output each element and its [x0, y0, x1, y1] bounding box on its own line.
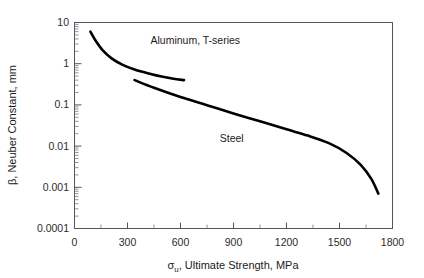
x-tick-label-300: 300 [119, 236, 137, 248]
x-tick-label-1200: 1200 [275, 236, 299, 248]
y-tick-label-0.1: 0.1 [54, 98, 69, 110]
y-axis-title: β, Neuber Constant, mm [6, 65, 18, 185]
curve-label-steel: Steel [220, 132, 244, 144]
neuber-constant-chart: 0 300 600 900 1200 1500 1800 10 1 0.1 0.… [0, 0, 424, 278]
x-axis-title-rest: , Ultimate Strength, MPa [179, 259, 300, 271]
y-tick-label-0.0001: 0.0001 [37, 222, 69, 234]
y-tick-label-0.001: 0.001 [43, 181, 69, 193]
curve-label-aluminum: Aluminum, T-series [150, 34, 240, 46]
x-tick-label-900: 900 [225, 236, 243, 248]
x-tick-label-600: 600 [172, 236, 190, 248]
x-tick-label-0: 0 [72, 236, 78, 248]
x-tick-label-1800: 1800 [381, 236, 405, 248]
y-tick-label-1: 1 [63, 57, 69, 69]
y-tick-label-0.01: 0.01 [49, 140, 70, 152]
y-tick-label-10: 10 [57, 16, 69, 28]
x-tick-label-1500: 1500 [328, 236, 352, 248]
